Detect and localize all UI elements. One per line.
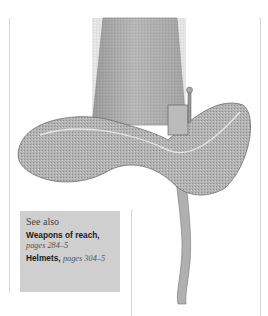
ref-pages: pages 304–5 (63, 254, 105, 263)
ref-title: Weapons of reach, (26, 230, 100, 240)
column-rule-middle (131, 210, 132, 316)
see-also-heading: See also (26, 216, 114, 228)
column-rule-left (9, 18, 10, 293)
see-also-ref-weapons-of-reach[interactable]: Weapons of reach, pages 284–5 (26, 230, 114, 251)
see-also-ref-helmets[interactable]: Helmets, pages 304–5 (26, 253, 114, 264)
see-also-box: See also Weapons of reach, pages 284–5 H… (20, 211, 120, 292)
ref-pages: pages 284–5 (26, 241, 68, 250)
column-rule-right (260, 18, 261, 316)
ref-title: Helmets, (26, 253, 61, 263)
